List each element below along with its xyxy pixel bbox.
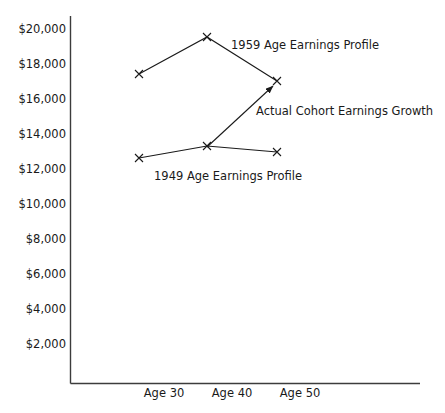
x-tick-label: Age 30 xyxy=(144,386,185,400)
series-marker-1959-age50 xyxy=(273,77,281,85)
annotation-actual-cohort-growth: Actual Cohort Earnings Growth xyxy=(256,104,433,118)
y-tick-label: $14,000 xyxy=(18,127,66,141)
series-marker-1959-age40 xyxy=(203,33,211,41)
series-line-1949 xyxy=(139,146,277,158)
y-tick-label: $18,000 xyxy=(18,57,66,71)
y-tick-label: $12,000 xyxy=(18,162,66,176)
y-tick-label: $6,000 xyxy=(26,267,66,281)
age-earnings-profile-chart: $20,000 $18,000 $16,000 $14,000 $12,000 … xyxy=(0,0,445,413)
annotation-1949-profile: 1949 Age Earnings Profile xyxy=(154,169,302,183)
y-tick-label: $10,000 xyxy=(18,197,66,211)
y-tick-label: $20,000 xyxy=(18,22,66,36)
y-tick-label: $16,000 xyxy=(18,92,66,106)
series-marker-1959-age30 xyxy=(135,70,143,78)
x-tick-label: Age 50 xyxy=(280,386,321,400)
x-tick-label: Age 40 xyxy=(212,386,253,400)
annotation-1959-profile: 1959 Age Earnings Profile xyxy=(231,38,379,52)
y-tick-label: $8,000 xyxy=(26,232,66,246)
y-tick-label: $4,000 xyxy=(26,302,66,316)
chart-canvas: $20,000 $18,000 $16,000 $14,000 $12,000 … xyxy=(0,0,445,413)
y-tick-label: $2,000 xyxy=(26,337,66,351)
